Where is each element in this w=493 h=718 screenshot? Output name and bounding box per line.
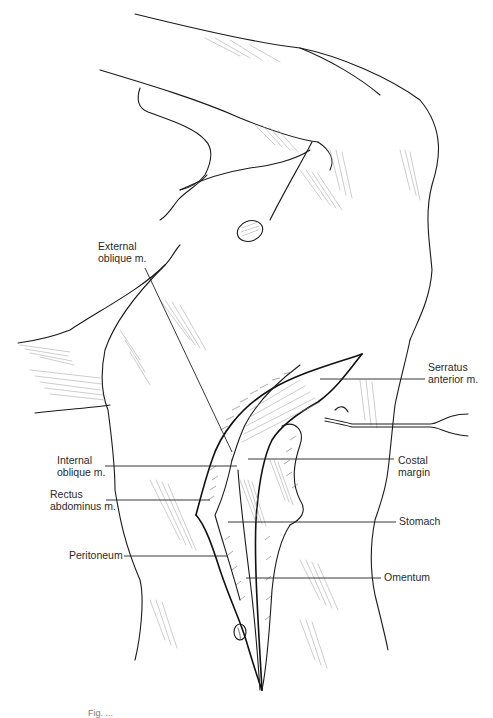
shoulder-outline <box>138 88 310 220</box>
retractor-icon <box>325 407 468 436</box>
label-stomach: Stomach <box>399 516 440 528</box>
label-external-oblique: External oblique m. <box>98 241 146 264</box>
label-internal-oblique: Internal oblique m. <box>57 455 105 478</box>
leader-external-oblique <box>145 268 232 452</box>
label-omentum: Omentum <box>384 572 430 584</box>
skin-shading <box>120 38 420 668</box>
leader-lines <box>105 268 425 578</box>
nipple <box>234 217 265 245</box>
figure-caption-cutoff: Fig. ... <box>88 708 113 718</box>
label-rectus-abdominus: Rectus abdominus m. <box>50 489 116 512</box>
label-serratus-anterior: Serratus anterior m. <box>428 362 478 385</box>
arm-outline <box>100 14 439 340</box>
label-peritoneum: Peritoneum <box>69 550 123 562</box>
left-body-outline <box>18 245 180 660</box>
label-costal-margin: Costal margin <box>398 455 430 478</box>
right-torso-outline <box>371 340 410 650</box>
